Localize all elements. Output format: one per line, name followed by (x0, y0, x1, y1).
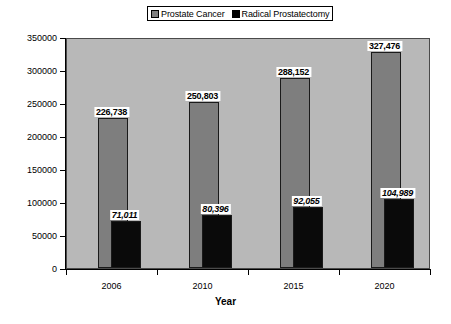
data-label-prostate-cancer-2010: 250,803 (185, 91, 220, 101)
x-axis-tick (248, 270, 249, 275)
data-label-radical-prostatectomy-2020: 104,989 (380, 188, 415, 198)
y-axis-tick (60, 137, 65, 138)
x-axis-tick (339, 270, 340, 275)
data-label-prostate-cancer-2015: 288,152 (276, 67, 311, 77)
y-axis-tick (60, 236, 65, 237)
legend-entry-radical-prostatectomy: Radical Prostatectomy (232, 9, 330, 19)
x-axis-category-label: 2020 (355, 281, 415, 291)
bar-radical-prostatectomy-2006 (111, 221, 141, 268)
data-label-prostate-cancer-2020: 327,476 (367, 41, 402, 51)
data-label-radical-prostatectomy-2010: 80,396 (200, 204, 230, 214)
y-axis-tick-label: 350000 (0, 34, 57, 43)
chart-legend: Prostate Cancer Radical Prostatectomy (147, 6, 333, 21)
y-axis-tick (60, 203, 65, 204)
y-axis-tick (60, 170, 65, 171)
plot-area (66, 38, 430, 269)
y-axis-tick-label: 250000 (0, 100, 57, 109)
x-axis-tick (157, 270, 158, 275)
y-axis-tick (60, 38, 65, 39)
y-axis-line (65, 38, 66, 270)
data-label-prostate-cancer-2006: 226,738 (94, 107, 129, 117)
y-axis-tick-label: 300000 (0, 67, 57, 76)
plot-inner (67, 39, 429, 268)
y-axis-tick-label: 50000 (0, 232, 57, 241)
x-axis-category-label: 2006 (82, 281, 142, 291)
y-axis-tick-label: 0 (0, 265, 57, 274)
data-label-radical-prostatectomy-2006: 71,011 (110, 210, 140, 220)
y-axis-tick-label: 150000 (0, 166, 57, 175)
y-axis-tick (60, 71, 65, 72)
legend-label-prostate-cancer: Prostate Cancer (161, 9, 225, 19)
data-label-radical-prostatectomy-2015: 92,055 (291, 196, 321, 206)
bar-chart: Prostate Cancer Radical Prostatectomy 05… (0, 0, 451, 324)
y-axis-tick (60, 269, 65, 270)
y-axis-tick-label: 100000 (0, 199, 57, 208)
x-axis-category-label: 2015 (264, 281, 324, 291)
bar-radical-prostatectomy-2010 (202, 215, 232, 268)
y-axis-tick (60, 104, 65, 105)
x-axis-category-label: 2010 (173, 281, 233, 291)
bar-radical-prostatectomy-2015 (293, 207, 323, 268)
y-axis-tick-label: 200000 (0, 133, 57, 142)
bar-radical-prostatectomy-2020 (384, 199, 414, 268)
legend-entry-prostate-cancer: Prostate Cancer (151, 9, 225, 19)
x-axis-tick (66, 270, 67, 275)
legend-swatch-icon-radical-prostatectomy (232, 10, 240, 18)
legend-label-radical-prostatectomy: Radical Prostatectomy (242, 9, 330, 19)
legend-swatch-icon-prostate-cancer (151, 10, 159, 18)
x-axis-title: Year (0, 296, 451, 307)
x-axis-tick (430, 270, 431, 275)
